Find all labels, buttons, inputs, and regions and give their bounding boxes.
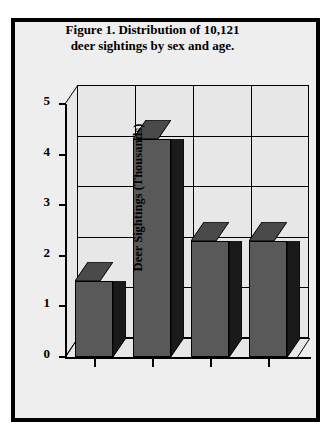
bar-buck — [75, 281, 113, 357]
bar-uncertain — [249, 241, 287, 357]
y-tick-2: 2 — [59, 255, 66, 257]
y-axis-title: Deer Sightings (Thousands) — [131, 98, 146, 298]
bar-fawn-side-face — [229, 241, 242, 357]
y-tick-1: 1 — [59, 305, 66, 307]
chart-title-line-1: Figure 1. Distribution of 10,121 — [66, 22, 240, 37]
bar-uncertain-front-face — [249, 241, 287, 357]
bar-buck-side-face — [113, 281, 126, 357]
y-axis-line — [65, 104, 67, 358]
y-tick-5: 5 — [59, 103, 66, 105]
bar-buck-top-face — [75, 262, 113, 281]
bar-fawn-front-face — [191, 241, 229, 357]
x-tick-uncertain — [268, 359, 270, 367]
y-tick-label-2: 2 — [44, 246, 51, 259]
y-tick-4: 4 — [59, 154, 66, 156]
y-tick-label-0: 0 — [44, 347, 51, 360]
y-tick-label-4: 4 — [44, 145, 51, 158]
x-axis-line — [65, 357, 311, 359]
x-tick-fawn — [210, 359, 212, 367]
y-tick-0: 0 — [59, 356, 66, 358]
y-tick-label-5: 5 — [44, 94, 51, 107]
bar-uncertain-side-face — [287, 241, 300, 357]
bar-buck-front-face — [75, 281, 113, 357]
chart-title-line-2: deer sightings by sex and age. — [10, 38, 295, 54]
chart-title: Figure 1. Distribution of 10,121 deer si… — [10, 22, 295, 54]
bar-fawn-top-face — [191, 222, 229, 241]
y-tick-3: 3 — [59, 204, 66, 206]
x-tick-buck — [94, 359, 96, 367]
figure-root: Figure 1. Distribution of 10,121 deer si… — [0, 0, 331, 441]
bar-uncertain-top-face — [249, 222, 287, 241]
x-tick-doe — [152, 359, 154, 367]
plot-area: 5 4 3 2 1 0 Buck Doe Fawn Uncertain Deer… — [65, 104, 297, 357]
y-tick-label-3: 3 — [44, 195, 51, 208]
y-tick-label-1: 1 — [44, 296, 51, 309]
bar-fawn — [191, 241, 229, 357]
vgridline-4 — [308, 85, 309, 338]
bar-doe-side-face — [171, 139, 184, 357]
